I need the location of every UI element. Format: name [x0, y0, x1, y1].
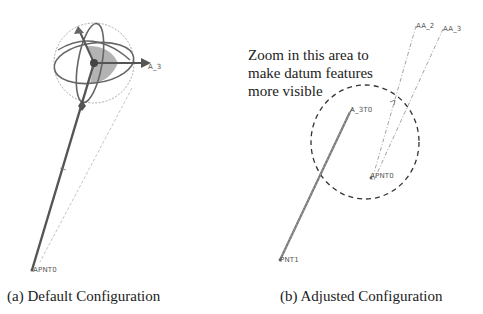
label-apnt0: APNT0 — [370, 172, 394, 180]
panel-adjusted-configuration: Zoom in this area to make datum features… — [240, 0, 483, 314]
point-label: APNT0 — [33, 266, 57, 274]
caption-adjusted-configuration: (b) Adjusted Configuration — [280, 288, 442, 305]
angle-marker — [390, 100, 395, 105]
label-aa-2: AA_2 — [416, 22, 435, 30]
label-pnt1: PNT1 — [280, 256, 299, 264]
center-handle — [90, 59, 98, 67]
main-axis-line — [32, 63, 94, 270]
reference-line — [40, 88, 132, 262]
arrow-label: A_3 — [148, 63, 161, 71]
zoom-annotation: Zoom in this area to make datum features… — [248, 46, 373, 100]
label-a-3t0: A_3T0 — [350, 106, 372, 114]
zoom-highlight-circle — [311, 85, 419, 199]
label-aa-3: AA_3 — [443, 25, 462, 33]
caption-default-configuration: (a) Default Configuration — [7, 288, 160, 305]
main-axis-highlight — [280, 112, 350, 260]
axis-aa-3 — [374, 29, 443, 180]
annotation-line-3: more visible — [248, 82, 373, 100]
panel-default-configuration: A_3 APNT0 (a) Default Configuration — [0, 0, 240, 314]
annotation-line-2: make datum features — [248, 64, 373, 82]
annotation-line-1: Zoom in this area to — [248, 46, 373, 64]
